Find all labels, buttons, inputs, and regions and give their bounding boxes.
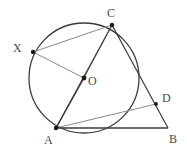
point-X (31, 50, 35, 54)
point-label-X: X (13, 42, 22, 54)
point-label-B: B (169, 133, 177, 145)
point-label-C: C (107, 7, 115, 19)
point-label-O: O (88, 75, 97, 87)
segment-XO (33, 52, 84, 78)
geometry-figure-canvas: C X O D A B (0, 0, 187, 153)
point-D (154, 102, 158, 106)
point-A (54, 126, 58, 130)
point-label-D: D (162, 92, 171, 104)
segment-AD (56, 104, 156, 128)
point-O (82, 76, 87, 81)
point-label-A: A (44, 134, 53, 146)
point-C (110, 23, 114, 27)
